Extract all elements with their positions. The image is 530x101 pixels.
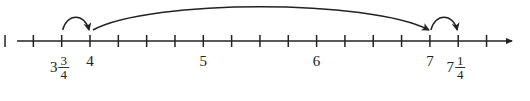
jump-arcs	[63, 7, 458, 30]
tick-label: 714	[446, 54, 465, 81]
tick-label: 334	[50, 54, 69, 81]
jump-arc	[63, 17, 89, 30]
jump-arc	[431, 17, 457, 30]
tick-label: 7	[426, 54, 434, 69]
tick-label: 6	[313, 54, 321, 69]
number-line	[0, 0, 530, 101]
tick-label: 5	[200, 54, 208, 69]
jump-arc	[93, 7, 429, 30]
tick-label: 4	[86, 54, 94, 69]
